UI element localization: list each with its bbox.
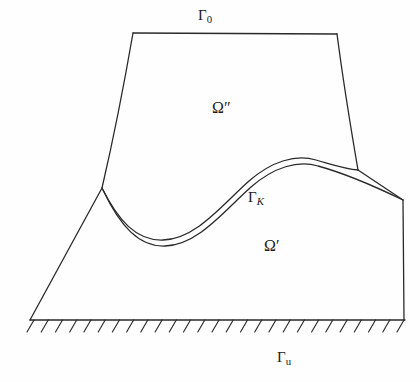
gamma-u-base: Γ (277, 349, 286, 365)
ground-hatch-tick (354, 320, 361, 332)
ground-hatch-tick (283, 320, 290, 332)
ground-hatch-tick (184, 320, 191, 332)
ground-hatch-tick (297, 320, 304, 332)
gamma-0-subscript: 0 (207, 13, 212, 25)
ground-hatch-tick (84, 320, 91, 332)
ground-hatch-tick (255, 320, 262, 332)
gamma-k-base: Γ (248, 189, 257, 205)
boundary-label-gamma-0: Γ0 (198, 8, 212, 24)
ground-hatch-tick (98, 320, 105, 332)
ground-hatch-tick (212, 320, 219, 332)
omega1-left-edge (30, 188, 102, 320)
ground-hatch-tick (198, 320, 205, 332)
omega-prime-base: Ω (264, 237, 276, 254)
ground-hatch-tick (340, 320, 347, 332)
omega-prime-mark: ′ (276, 237, 280, 254)
boundary-label-gamma-u: Γu (277, 350, 291, 366)
gamma-k-subscript: K (257, 195, 264, 207)
ground-hatch-tick (127, 320, 134, 332)
ground-hatch-tick (383, 320, 390, 332)
domain-diagram-svg (0, 0, 420, 382)
ground-hatch-tick (326, 320, 333, 332)
ground-hatch-tick (27, 320, 34, 332)
omega2-right-edge (337, 34, 358, 170)
contact-curve-upper (102, 158, 358, 240)
region-label-omega-prime: Ω′ (264, 238, 279, 254)
ground-hatch-tick (226, 320, 233, 332)
ground-hatch-tick (241, 320, 248, 332)
gamma-u-subscript: u (286, 355, 291, 367)
omega1-right-edge (403, 200, 404, 320)
omega2-top-edge (133, 33, 337, 34)
omega2-left-edge (102, 33, 133, 188)
boundary-label-gamma-k: ΓK (248, 190, 264, 206)
ground-hatch-tick (56, 320, 63, 332)
ground-hatch-tick (312, 320, 319, 332)
ground-hatch-tick (41, 320, 48, 332)
ground-hatch-tick (169, 320, 176, 332)
omega-double-prime-base: Ω (212, 99, 224, 116)
ground-hatch-tick (269, 320, 276, 332)
gamma-0-base: Γ (198, 7, 207, 23)
ground-hatch-tick (155, 320, 162, 332)
ground-hatching (27, 320, 404, 332)
ground-hatch-tick (112, 320, 119, 332)
ground-hatch-tick (369, 320, 376, 332)
omega1-right-slope (358, 170, 403, 200)
region-label-omega-double-prime: Ω″ (212, 100, 231, 116)
domain-diagram-figure: Γ0 Ω″ ΓK Ω′ Γu (0, 0, 420, 382)
omega-double-prime-mark: ″ (224, 99, 231, 116)
ground-hatch-tick (70, 320, 77, 332)
ground-hatch-tick (141, 320, 148, 332)
ground-hatch-tick (397, 320, 404, 332)
